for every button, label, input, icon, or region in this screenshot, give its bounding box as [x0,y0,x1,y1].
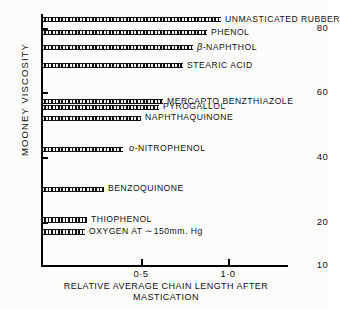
series-label-text: OXYGEN AT [89,226,145,236]
x-axis-line [41,265,288,267]
y-tick-60 [41,92,48,94]
series-label: UNMASTICATED RUBBER [225,14,340,24]
series-label: o-NITROPHENOL [129,143,206,153]
x-axis-caption-line1: RELATIVE AVERAGE CHAIN LENGTH AFTER [41,281,291,292]
y-tick-40 [41,157,48,159]
y-tick-label-60: 60 [302,86,328,97]
series-label-units: 150mm. Hg [154,226,203,236]
series-bar [41,229,85,234]
series-bar [41,30,207,35]
x-tick-label-0point5: 0·5 [121,268,161,279]
y-tick-label-10: 10 [302,259,328,270]
y-axis-title: MOONEY VISCOSITY [19,20,30,180]
series-bar [41,17,221,22]
series-bar [41,99,163,104]
series-label: BENZOQUINONE [108,183,184,193]
y-axis-line [41,14,43,266]
series-bar [41,63,183,68]
x-axis-caption-line2: MASTICATION [41,292,291,303]
series-label: PHENOL [211,27,249,37]
approx-symbol: ∼ [145,226,154,236]
series-bar [41,147,123,152]
x-tick-label-1point0: 1·0 [208,268,248,279]
series-label: PYROGALLOL [163,101,226,111]
x-tick-1point0 [228,259,230,266]
series-bar [41,217,87,222]
series-bar [41,116,141,121]
x-tick-0point5 [141,259,143,266]
y-tick-label-20: 20 [302,216,328,227]
y-tick-label-40: 40 [302,151,328,162]
series-label-text: -NAPHTHOL [203,42,257,52]
y-tick-label-80: 80 [302,22,328,33]
series-label: β-NAPHTHOL [197,42,257,52]
series-label: THIOPHENOL [91,214,152,224]
series-bar [41,105,159,110]
series-label: OXYGEN AT ∼150mm. Hg [89,226,203,236]
series-label: NAPHTHAQUINONE [145,112,233,122]
series-label-text: -NITROPHENOL [135,143,206,153]
series-bar [41,45,193,50]
x-axis-caption: RELATIVE AVERAGE CHAIN LENGTH AFTER MAST… [41,281,291,303]
series-bar [41,187,104,192]
series-label: STEARIC ACID [187,60,253,70]
